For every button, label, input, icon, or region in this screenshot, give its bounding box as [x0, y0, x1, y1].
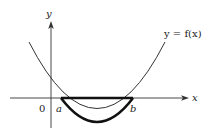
- y-axis-label: y: [45, 8, 52, 19]
- function-graph: y x 0 a b y = f(x): [0, 0, 207, 135]
- point-b-label: b: [130, 103, 136, 114]
- origin-label: 0: [39, 103, 45, 114]
- curve-label: y = f(x): [163, 28, 202, 39]
- curve-below-axis-arc: [61, 98, 133, 122]
- x-axis-label: x: [192, 92, 198, 103]
- point-a-label: a: [56, 103, 62, 114]
